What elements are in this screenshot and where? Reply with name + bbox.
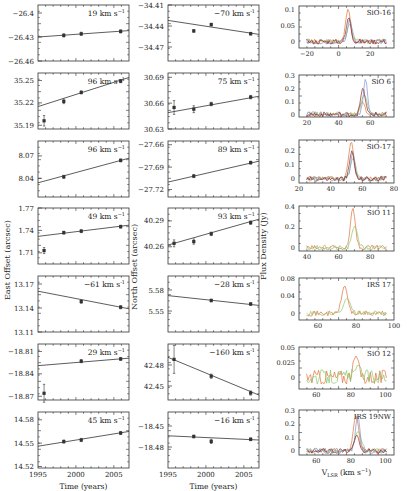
fit-line — [168, 96, 259, 112]
panel-label: IRS 17 — [367, 281, 391, 289]
x-tick-label: 1995 — [159, 471, 177, 479]
spectrum-line — [307, 416, 387, 454]
y-tick-label: 0 — [291, 374, 295, 382]
y-tick-label: −34.44 — [138, 23, 164, 31]
panel-label: −61 km s-1 — [84, 279, 125, 289]
data-point — [42, 119, 45, 122]
x-tick-label: 80 — [347, 457, 355, 465]
right-ylabel: Flux Density (Jy) — [259, 212, 268, 280]
fit-line — [168, 20, 259, 34]
y-tick-label: 0.4 — [285, 203, 295, 211]
panel-spectrum-1: 0.30.20.10204060SiO 6 — [285, 72, 394, 128]
x-tick-label: 100 — [388, 322, 400, 330]
y-tick-label: 0.1 — [285, 161, 295, 169]
x-tick-label: 80 — [352, 322, 360, 330]
x-tick-label: −20 — [300, 50, 314, 58]
y-tick-label: 30.66 — [144, 100, 165, 108]
panel-label: SiO-17 — [367, 143, 391, 151]
data-point — [192, 29, 195, 32]
fit-line — [168, 436, 259, 440]
middle-ylabel: North Offset (arcsec) — [130, 224, 139, 310]
data-point — [210, 102, 213, 105]
y-tick-label: 0 — [291, 244, 295, 252]
y-tick-label: 0.1 — [285, 6, 295, 14]
panel-spectrum-3: 0.40.20406080SiO 11 — [285, 203, 394, 262]
panel-north-0: −34.41−34.44−34.47−70 km s-1 — [138, 2, 259, 62]
panel-north-3: 40.2940.2693 km s−1 — [144, 208, 259, 264]
figure: −26.4−26.43−26.4619 km s−135.2535.2235.1… — [0, 0, 407, 491]
panel-label: 89 km s−1 — [218, 144, 255, 154]
y-tick-label: 0.05 — [281, 22, 295, 30]
y-tick-label: 14.55 — [14, 440, 34, 448]
data-point — [119, 159, 122, 162]
panel-north-2: −27.66−27.69−27.7289 km s−1 — [138, 141, 259, 197]
data-point — [119, 431, 122, 434]
fit-line — [38, 431, 129, 446]
figure-canvas: −26.4−26.43−26.4619 km s−135.2535.2235.1… — [0, 0, 407, 491]
y-tick-label: 0.08 — [281, 275, 295, 283]
x-tick-label: 40 — [327, 185, 335, 193]
y-tick-label: 0 — [291, 447, 295, 455]
x-tick-label: 40 — [334, 119, 342, 127]
data-point — [172, 358, 175, 361]
y-tick-label: 0.1 — [285, 434, 295, 442]
y-tick-label: 14.52 — [14, 463, 34, 471]
y-tick-label: 13.14 — [14, 305, 35, 313]
y-tick-label: −27.72 — [138, 186, 164, 194]
y-tick-label: 0 — [291, 38, 295, 46]
x-axis-label: Time (years) — [190, 482, 238, 491]
y-tick-label: −34.47 — [138, 44, 164, 52]
x-tick-label: 0 — [337, 50, 341, 58]
data-point — [249, 32, 252, 35]
y-tick-label: 35.25 — [14, 77, 34, 85]
x-tick-label: 80 — [366, 253, 374, 261]
panel-east-5: −18.81−18.84−18.8729 km s−1 — [8, 344, 129, 402]
spectrum-line — [307, 417, 387, 454]
data-point — [119, 225, 122, 228]
panel-label: 93 km s−1 — [218, 211, 255, 221]
x-tick-label: 60 — [366, 119, 374, 127]
x-tick-label: 60 — [314, 322, 322, 330]
fit-line — [38, 225, 129, 236]
data-point — [192, 435, 195, 438]
panel-north-5: 42.4842.45−160 km s-1 — [144, 344, 259, 400]
panel-east-2: 8.078.0496 km s−1 — [18, 141, 129, 197]
panel-label: SiO 6 — [372, 78, 392, 86]
y-tick-label: 0 — [291, 175, 295, 183]
panel-east-3: 1.771.741.7149 km s−1 — [18, 205, 129, 265]
data-point — [210, 299, 213, 302]
x-tick-label: 2005 — [235, 471, 253, 479]
x-axis-label: VLSR (km s−1) — [321, 467, 372, 478]
data-point — [210, 440, 213, 443]
y-tick-label: −26.43 — [8, 34, 34, 42]
y-tick-label: −18.81 — [8, 348, 34, 356]
y-tick-label: 40.26 — [144, 243, 165, 251]
panel-north-6: −18.45−18.48−16 km s-1199520002005Time (… — [138, 412, 259, 491]
y-tick-label: −18.48 — [138, 444, 164, 452]
y-tick-label: 0.2 — [285, 420, 295, 428]
y-tick-label: 8.07 — [18, 152, 34, 160]
y-tick-label: 35.22 — [14, 99, 34, 107]
data-point — [249, 221, 252, 224]
y-tick-label: 5.55 — [148, 308, 164, 316]
panel-label: SiO 12 — [367, 350, 391, 358]
data-point — [210, 375, 213, 378]
fit-line — [38, 31, 129, 37]
data-point — [62, 34, 65, 37]
y-tick-label: −34.41 — [138, 2, 164, 10]
data-point — [249, 438, 252, 441]
y-tick-label: 42.48 — [144, 362, 164, 370]
data-point — [172, 106, 175, 109]
data-point — [210, 232, 213, 235]
data-point — [249, 96, 252, 99]
y-tick-label: 8.04 — [18, 175, 34, 183]
spectrum-line — [307, 18, 387, 44]
x-tick-label: 1995 — [29, 471, 47, 479]
panel-label: −70 km s-1 — [214, 8, 255, 18]
data-point — [249, 302, 252, 305]
x-tick-label: 100 — [379, 391, 391, 399]
panel-label: −160 km s-1 — [209, 347, 255, 357]
panel-label: −28 km s-1 — [214, 279, 255, 289]
data-point — [80, 360, 83, 363]
spectrum-line — [307, 226, 387, 250]
